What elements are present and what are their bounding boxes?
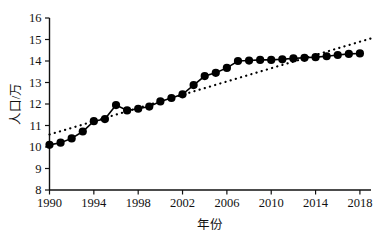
data-point-marker [311,53,319,61]
x-axis-tick-labels: 19901994199820022006201020142018 [37,196,372,210]
x-tick-label: 1994 [81,196,107,210]
data-point-marker [201,72,209,80]
plot-area [45,38,371,149]
data-point-marker [323,52,331,60]
y-tick-label: 16 [29,11,42,25]
data-point-marker [334,51,342,59]
data-point-marker [178,90,186,98]
x-axis-title: 年份 [197,218,223,232]
series-line-population [50,53,360,144]
y-axis-group: 8910111213141516 [29,11,50,197]
data-point-marker [245,56,253,64]
data-point-marker [278,55,286,63]
x-axis-group: 19901994199820022006201020142018 [37,190,372,210]
y-tick-label: 12 [29,97,42,111]
y-axis-title: 人口/万 [9,83,23,125]
data-point-marker [223,64,231,72]
x-tick-label: 2006 [214,196,239,210]
data-point-marker [145,102,153,110]
data-point-marker [123,106,131,114]
y-tick-label: 13 [29,76,42,90]
y-tick-label: 14 [29,54,42,68]
data-point-marker [101,115,109,123]
data-point-marker [45,141,53,149]
chart-canvas: 8910111213141516 19901994199820022006201… [0,0,384,240]
data-point-marker [190,81,198,89]
x-tick-label: 1998 [126,196,151,210]
data-point-marker [167,94,175,102]
x-tick-label: 2010 [259,196,284,210]
data-point-marker [112,101,120,109]
data-point-marker [289,54,297,62]
data-point-marker [212,69,220,77]
data-point-marker [90,117,98,125]
y-tick-label: 9 [35,162,41,176]
data-point-marker [356,49,364,57]
data-point-marker [134,105,142,113]
data-point-marker [345,50,353,58]
x-tick-label: 2018 [347,196,372,210]
data-point-marker [267,56,275,64]
y-tick-label: 10 [29,140,42,154]
population-line-chart: 8910111213141516 19901994199820022006201… [0,0,384,240]
y-tick-label: 15 [29,33,42,47]
data-point-marker [256,56,264,64]
series-markers-population [45,49,364,149]
x-tick-label: 2002 [170,196,195,210]
y-tick-label: 11 [29,119,41,133]
data-point-marker [79,127,87,135]
data-point-marker [156,97,164,105]
data-point-marker [234,57,242,65]
data-point-marker [68,134,76,142]
x-tick-label: 2014 [303,196,329,210]
data-point-marker [300,54,308,62]
y-axis-tick-labels: 8910111213141516 [29,11,42,197]
data-point-marker [56,139,64,147]
x-tick-label: 1990 [37,196,62,210]
